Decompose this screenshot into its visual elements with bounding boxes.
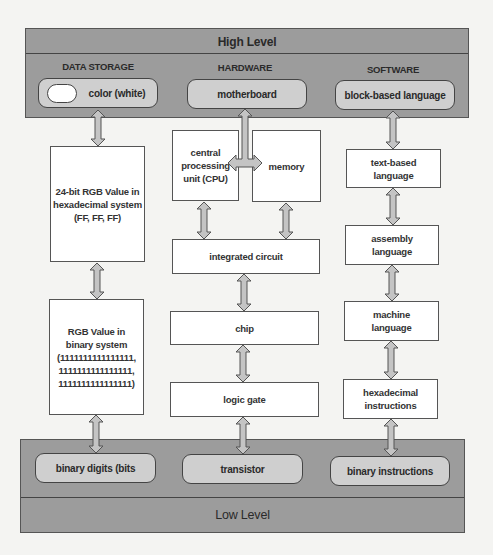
node-hexadecimal-instructions: hexadecimal instructions: [343, 379, 438, 419]
high-level-divider: [26, 53, 468, 54]
node-integrated-circuit: integrated circuit: [172, 239, 320, 274]
arrow-text-to-assembly: [386, 188, 400, 225]
node-motherboard: motherboard: [187, 79, 307, 109]
node-memory: memory: [252, 130, 321, 202]
low-level-label: Low Level: [21, 498, 464, 532]
node-color-white-label: color (white): [89, 88, 146, 99]
node-cpu: central processing unit (CPU): [172, 130, 239, 201]
node-binary-instructions: binary instructions: [330, 456, 450, 486]
node-machine-language: machine language: [344, 301, 439, 341]
column-header-hardware: HARDWARE: [218, 62, 272, 73]
white-color-swatch: [47, 84, 77, 103]
node-24bit-rgb-hex: 24-bit RGB Value in hexadecimal system (…: [50, 146, 145, 262]
node-transistor: transistor: [182, 454, 303, 484]
arrow-machine-to-hexadecimal: [384, 341, 398, 379]
column-header-software: SOFTWARE: [367, 64, 419, 75]
arrow-cpu-to-ic: [197, 202, 211, 239]
high-level-label: High Level: [26, 29, 468, 54]
node-block-based-language: block-based language: [335, 80, 455, 110]
column-header-data-storage: DATA STORAGE: [62, 61, 134, 72]
arrow-memory-to-ic: [279, 203, 293, 239]
node-binary-digits: binary digits (bits: [35, 453, 156, 483]
arrow-assembly-to-machine: [385, 265, 399, 301]
node-assembly-language: assembly language: [345, 225, 439, 265]
node-logic-gate: logic gate: [170, 382, 319, 417]
node-rgb-binary: RGB Value in binary system (111111111111…: [49, 299, 144, 415]
node-chip: chip: [170, 311, 319, 345]
node-color-white: color (white): [38, 78, 158, 108]
arrow-ic-to-chip: [237, 274, 251, 311]
arrow-hex-to-binary: [90, 263, 104, 299]
node-text-based-language: text-based language: [346, 149, 441, 188]
arrow-chip-to-logic-gate: [236, 345, 250, 382]
